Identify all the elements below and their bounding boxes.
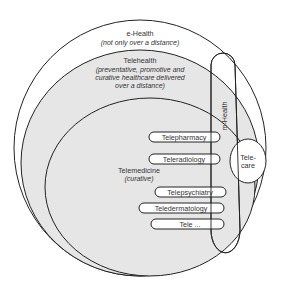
ehealth-concept-diagram: e-Health (not only over a distance) Tele… (0, 0, 281, 287)
specialty-tele-other: Tele ... (151, 219, 224, 229)
mhealth-label: m-Health (220, 101, 229, 130)
specialty-telepharmacy: Telepharmacy (149, 132, 220, 142)
specialty-label: Tele ... (179, 220, 200, 229)
telemedicine-title: Telemedicine (118, 166, 160, 175)
ehealth-subtitle: (not only over a distance) (101, 39, 180, 47)
telehealth-subtitle-line-1: (preventative, promotive and (96, 66, 186, 74)
specialty-teleradiology: Teleradiology (149, 154, 220, 164)
specialty-telepsychiatry: Telepsychiatry (155, 187, 226, 197)
specialty-label: Teleradiology (163, 155, 206, 164)
specialty-label: Teledermatology (155, 204, 208, 213)
ehealth-title: e-Health (126, 29, 153, 38)
telemedicine-subtitle: (curative) (124, 175, 153, 183)
telehealth-title: Telehealth (124, 56, 157, 65)
telehealth-subtitle-line-3: over a distance) (115, 82, 165, 90)
telecare-label-line-2: care (241, 161, 255, 170)
specialty-label: Telepsychiatry (167, 188, 213, 197)
specialty-label: Telepharmacy (162, 133, 207, 142)
telehealth-subtitle-line-2: curative healthcare delivered (95, 74, 186, 81)
